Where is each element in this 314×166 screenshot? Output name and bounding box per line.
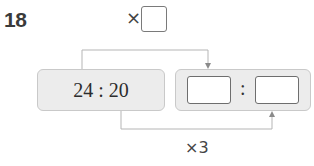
answer-first-term-input[interactable] [187, 76, 231, 104]
answer-second-term-input[interactable] [255, 76, 299, 104]
bottom-arrow-head-icon [269, 111, 275, 117]
bottom-multiplier-label: ×3 [185, 138, 209, 157]
ratio-colon: : [240, 77, 246, 100]
bottom-arrow-line [121, 111, 272, 129]
top-arrow-line [82, 50, 208, 69]
given-ratio-text: 24 : 20 [73, 79, 129, 102]
answer-ratio-box: : [175, 69, 311, 111]
given-ratio-box: 24 : 20 [37, 69, 165, 111]
